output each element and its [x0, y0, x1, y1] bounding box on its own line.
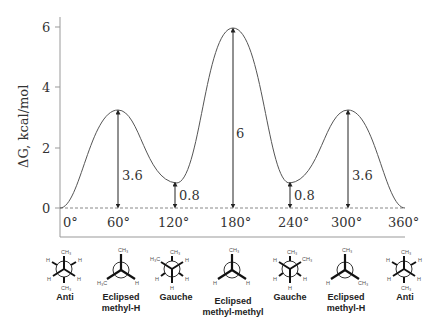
- newman-eclipsed-180: CH₃ H H: [213, 247, 250, 286]
- svg-text:H: H: [326, 280, 330, 286]
- conformer-label-120: Gauche: [159, 292, 192, 302]
- conformer-label-360: Anti: [396, 292, 414, 302]
- svg-text:H₃C: H₃C: [150, 256, 160, 262]
- svg-text:H: H: [386, 257, 390, 263]
- svg-text:CH₃: CH₃: [358, 280, 368, 286]
- svg-text:H: H: [387, 276, 391, 282]
- annotation-240: 0.8: [294, 188, 315, 203]
- x-tick-360: 360°: [388, 215, 419, 230]
- conformer-label-240: Gauche: [273, 292, 306, 302]
- newman-gauche-240: CH₃ CH₃ H H H H: [273, 249, 312, 291]
- newman-eclipsed-60: CH₃ H₃C H: [97, 247, 139, 286]
- svg-text:H₃C: H₃C: [97, 280, 107, 286]
- conformer-label-60-line1: Eclipsed: [102, 292, 139, 302]
- svg-text:CH₃: CH₃: [401, 285, 411, 291]
- svg-text:H: H: [273, 257, 277, 263]
- svg-text:CH₃: CH₃: [342, 247, 352, 253]
- y-tick-0: 0: [42, 201, 50, 216]
- newman-anti-360: CH₃ CH₃ H H H H: [386, 249, 422, 291]
- svg-text:H: H: [135, 280, 139, 286]
- energy-diagram: 0 2 4 6 ΔG, kcal/mol 3.6 0.8 6 0.8 3.6 0…: [0, 0, 443, 327]
- svg-text:CH₃: CH₃: [229, 247, 239, 253]
- newman-anti-0: CH₃ CH₃ H H H H: [46, 249, 82, 291]
- svg-text:CH₃: CH₃: [287, 249, 297, 255]
- x-tick-120: 120°: [158, 215, 189, 230]
- conformer-label-180-line2: methyl-methyl: [202, 307, 263, 317]
- plot-frame: [55, 17, 405, 237]
- conformer-label-300-line2: methyl-H: [327, 303, 366, 313]
- svg-text:CH₃: CH₃: [61, 249, 71, 255]
- annotation-300: 3.6: [352, 168, 373, 183]
- svg-text:H: H: [185, 276, 189, 282]
- svg-text:H: H: [185, 257, 189, 263]
- svg-text:H: H: [155, 276, 159, 282]
- x-tick-240: 240°: [278, 215, 309, 230]
- svg-text:H: H: [417, 276, 421, 282]
- svg-text:CH₃: CH₃: [302, 256, 312, 262]
- svg-text:H: H: [170, 285, 174, 291]
- newman-eclipsed-300: CH₃ H CH₃: [326, 247, 368, 286]
- conformer-label-180-line1: Eclipsed: [214, 296, 251, 306]
- svg-text:CH₃: CH₃: [170, 249, 180, 255]
- svg-text:H: H: [418, 257, 422, 263]
- svg-text:H: H: [246, 280, 250, 286]
- svg-text:CH₃: CH₃: [401, 249, 411, 255]
- x-tick-60: 60°: [107, 215, 130, 230]
- annotation-120: 0.8: [179, 188, 200, 203]
- svg-text:H: H: [77, 276, 81, 282]
- annotation-180: 6: [236, 126, 244, 141]
- x-tick-180: 180°: [220, 215, 251, 230]
- svg-text:H: H: [303, 276, 307, 282]
- x-tick-0: 0°: [63, 215, 78, 230]
- svg-text:CH₃: CH₃: [118, 247, 128, 253]
- x-tick-300: 300°: [331, 215, 362, 230]
- svg-text:H: H: [46, 257, 50, 263]
- svg-text:H: H: [47, 276, 51, 282]
- conformer-label-60-line2: methyl-H: [102, 303, 141, 313]
- newman-gauche-120: CH₃ H₃C H H H H: [150, 249, 189, 291]
- annotation-60: 3.6: [122, 168, 143, 183]
- y-tick-6: 6: [42, 20, 50, 35]
- y-axis-label: ΔG, kcal/mol: [16, 85, 31, 168]
- svg-text:H: H: [273, 276, 277, 282]
- y-tick-4: 4: [42, 80, 50, 95]
- svg-text:H: H: [288, 285, 292, 291]
- conformer-label-300-line1: Eclipsed: [327, 292, 364, 302]
- svg-text:H: H: [213, 280, 217, 286]
- y-tick-2: 2: [42, 141, 50, 156]
- svg-text:H: H: [78, 257, 82, 263]
- svg-text:CH₃: CH₃: [61, 285, 71, 291]
- conformer-label-0: Anti: [56, 292, 74, 302]
- barrier-arrows: [118, 30, 348, 206]
